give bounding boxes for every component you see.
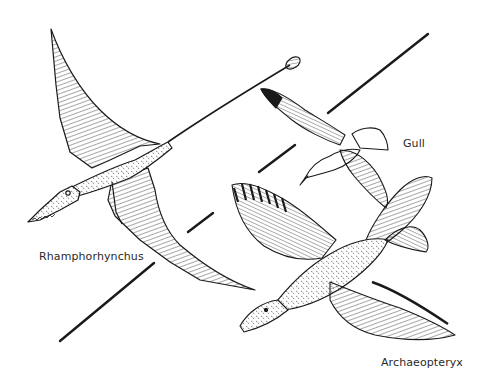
- pterosaur-eye: [66, 191, 70, 195]
- divider-segment: [188, 213, 213, 232]
- illustration: [0, 0, 490, 391]
- pterosaur-upper-wing: [51, 29, 160, 168]
- label-gull: Gull: [403, 137, 425, 150]
- archaeopteryx-left-wing: [232, 183, 336, 259]
- pterosaur-head: [28, 186, 80, 222]
- pterosaur-tail-vane: [284, 54, 303, 71]
- gull-near-wing: [340, 150, 388, 208]
- label-archaeopteryx: Archaeopteryx: [381, 356, 463, 369]
- figure-canvas: Rhamphorhynchus Gull Archaeopteryx: [0, 0, 490, 391]
- label-rhamphorhynchus: Rhamphorhynchus: [39, 250, 144, 263]
- divider-segment: [259, 145, 295, 172]
- gull-beak: [300, 176, 308, 185]
- archaeopteryx-head: [240, 300, 288, 332]
- gull-tail: [352, 128, 388, 150]
- divider-segment: [328, 34, 428, 113]
- divider-segment: [60, 263, 154, 341]
- archaeopteryx-eye: [264, 308, 267, 311]
- gull-illustration: [261, 89, 388, 208]
- archaeopteryx-illustration: [232, 177, 455, 340]
